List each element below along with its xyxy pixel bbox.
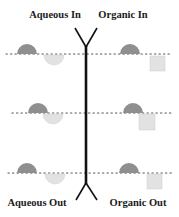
inlet-arm-organic xyxy=(86,28,97,47)
row-3 xyxy=(17,163,162,189)
diagram-canvas xyxy=(0,0,179,217)
interface-lines xyxy=(6,54,172,173)
outlet-arm-aqueous xyxy=(76,183,86,200)
light-square-organic xyxy=(150,56,165,71)
outlet-arm-organic xyxy=(86,183,97,200)
light-droplet-bowl-aqueous xyxy=(44,55,64,65)
dark-droplet-cap-aqueous xyxy=(17,163,37,173)
light-square-organic xyxy=(147,174,162,189)
dark-droplet-cap-aqueous xyxy=(17,44,37,54)
light-droplet-bowl-aqueous xyxy=(45,174,65,184)
dark-droplet-cap-organic xyxy=(123,103,143,113)
row-2 xyxy=(28,103,155,130)
light-square-organic xyxy=(139,114,155,130)
extraction-flow-diagram: Aqueous In Organic In Aqueous Out Organi… xyxy=(0,0,179,217)
dark-droplet-cap-organic xyxy=(119,163,139,173)
row-1 xyxy=(17,44,165,71)
light-droplet-bowl-aqueous xyxy=(43,114,63,124)
dark-droplet-cap-aqueous xyxy=(28,103,48,113)
inlet-arm-aqueous xyxy=(75,28,86,47)
dark-droplet-cap-organic xyxy=(120,44,140,54)
